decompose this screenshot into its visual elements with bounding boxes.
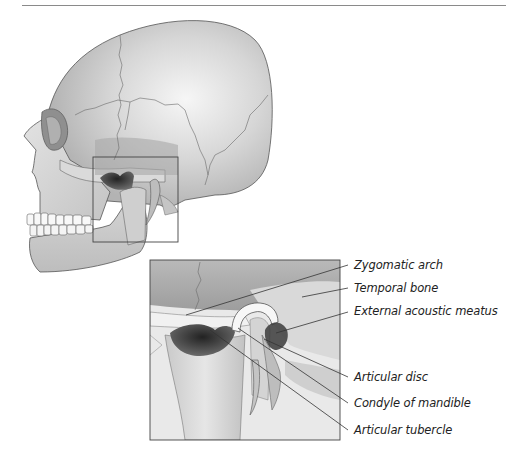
- label-condyle-of-mandible: Condyle of mandible: [354, 396, 471, 410]
- label-zygomatic-arch: Zygomatic arch: [354, 258, 443, 272]
- label-temporal-bone: Temporal bone: [354, 281, 438, 295]
- skull-illustration: [24, 21, 272, 272]
- label-articular-disc: Articular disc: [354, 370, 428, 384]
- label-articular-tubercle: Articular tubercle: [354, 423, 452, 437]
- label-external-acoustic-meatus: External acoustic meatus: [354, 304, 498, 318]
- tmj-inset: [150, 260, 340, 440]
